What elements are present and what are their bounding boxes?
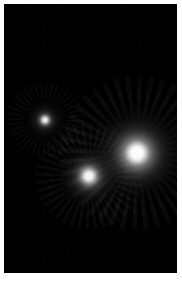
image-frame bbox=[4, 4, 177, 273]
sensor-noise-overlay bbox=[4, 4, 177, 273]
star-field-canvas bbox=[4, 4, 177, 273]
image-viewer bbox=[0, 0, 182, 284]
